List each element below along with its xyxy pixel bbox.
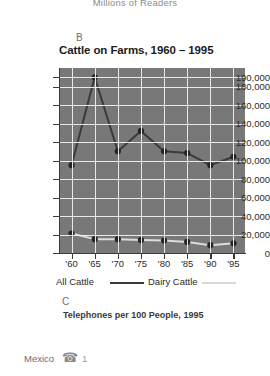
x-tick-label: '95 (220, 258, 246, 269)
x-tick-label: '70 (105, 258, 131, 269)
section-c-title: Telephones per 100 People, 1995 (63, 310, 203, 320)
telephone-icon: ☎ (62, 350, 78, 366)
legend-label-dairy-cattle: Dairy Cattle (148, 276, 198, 287)
x-tick-label: '60 (59, 258, 85, 269)
legend-swatch-all-cattle (110, 282, 144, 284)
y-tick-label: 120,000 (218, 138, 270, 147)
y-tick-label: 20,000 (218, 230, 270, 239)
y-tick-label: 60,000 (218, 193, 270, 202)
y-tick-label: 140,000 (218, 119, 270, 128)
y-tick-label: 100,000 (218, 156, 270, 165)
y-tick (53, 161, 59, 162)
y-tick (53, 179, 59, 180)
section-c-letter: C (62, 296, 69, 307)
cattle-line-chart: 020,00040,00060,00080,000100,000120,0001… (0, 60, 270, 272)
gridline-vertical (210, 68, 211, 253)
gridline-vertical (95, 68, 96, 253)
x-tick-label: '75 (128, 258, 154, 269)
gridline-vertical (72, 68, 73, 253)
y-tick (53, 105, 59, 106)
y-tick (53, 253, 59, 254)
y-tick-label: 190,000 (218, 73, 270, 82)
y-tick (53, 124, 59, 125)
y-tick-label: 160,000 (218, 101, 270, 110)
top-caption: Millions of Readers (0, 0, 270, 8)
section-b-letter: B (76, 32, 83, 43)
y-tick-label: 0 (218, 249, 270, 258)
gridline-vertical (187, 68, 188, 253)
gridline-vertical (164, 68, 165, 253)
series-line-all-cattle (72, 77, 234, 165)
y-tick-label: 40,000 (218, 212, 270, 221)
gridline-vertical (141, 68, 142, 253)
y-tick-label: 180,000 (218, 82, 270, 91)
chart-title: Cattle on Farms, 1960 – 1995 (59, 44, 213, 56)
y-tick-label: 80,000 (218, 175, 270, 184)
telephone-count: 1 (82, 353, 87, 364)
x-tick-label: '85 (174, 258, 200, 269)
legend-swatch-dairy-cattle (202, 282, 236, 284)
y-axis-line (59, 68, 60, 254)
gridline-vertical (118, 68, 119, 253)
y-tick (53, 142, 59, 143)
legend-label-all-cattle: All Cattle (56, 276, 94, 287)
country-label: Mexico (24, 353, 54, 364)
x-tick-label: '90 (197, 258, 223, 269)
y-tick (53, 198, 59, 199)
telephone-row: Mexico ☎ 1 (0, 352, 270, 370)
chart-legend: All CattleDairy Cattle (0, 276, 270, 290)
x-tick-label: '80 (151, 258, 177, 269)
y-tick (53, 216, 59, 217)
x-tick-label: '65 (82, 258, 108, 269)
y-tick (53, 77, 59, 78)
y-tick (53, 87, 59, 88)
y-tick (53, 235, 59, 236)
